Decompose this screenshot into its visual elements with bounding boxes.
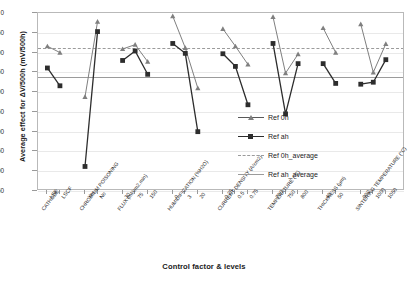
legend-key-4 <box>238 170 264 180</box>
x-axis-tick <box>197 190 198 194</box>
data-point-ref-0h <box>57 50 62 55</box>
series-line-ref-ah <box>123 51 148 74</box>
legend-label: Ref ah <box>268 133 289 140</box>
series-line-ref-ah <box>323 64 336 84</box>
data-point-ref-ah <box>58 83 63 88</box>
legend-label: Ref ah_average <box>268 171 318 178</box>
data-point-ref-ah <box>371 80 376 85</box>
data-point-ref-ah <box>83 164 88 169</box>
series-line-ref-ah <box>47 68 60 86</box>
series-line-ref-ah <box>85 32 98 167</box>
y-axis-tick <box>32 32 37 33</box>
data-point-ref-ah <box>220 51 225 56</box>
x-axis-level-label: 3 <box>186 194 193 200</box>
x-axis-tick <box>172 190 173 194</box>
y-axis-tick-label: -50 <box>0 28 4 35</box>
legend-line <box>238 174 264 175</box>
x-axis-tick <box>297 190 298 194</box>
legend-item: Ref ah <box>238 127 388 146</box>
legend-key-1 <box>238 113 264 123</box>
legend-key-3 <box>238 151 264 161</box>
x-axis-tick <box>222 190 223 194</box>
y-axis-tick-label: -250 <box>0 107 4 114</box>
data-point-ref-0h <box>220 26 225 31</box>
y-axis-tick-label: -350 <box>0 147 4 154</box>
series-line-ref-ah <box>223 54 248 105</box>
data-point-ref-0h <box>195 86 200 91</box>
square-marker-icon <box>248 134 253 139</box>
x-axis-tick <box>385 190 386 194</box>
triangle-marker-icon <box>248 115 254 120</box>
data-point-ref-ah <box>358 82 363 87</box>
data-point-ref-0h <box>133 42 138 47</box>
y-axis-tick <box>32 91 37 92</box>
legend-line <box>238 155 264 156</box>
data-point-ref-ah <box>120 58 125 63</box>
data-point-ref-ah <box>133 49 138 54</box>
y-axis-tick <box>32 150 37 151</box>
data-point-ref-0h <box>321 25 326 30</box>
series-line-ref-ah <box>273 43 298 113</box>
x-axis-level-label: 75 <box>136 191 144 199</box>
data-point-ref-0h <box>383 41 388 46</box>
legend-item: Ref ah_average <box>238 165 388 184</box>
x-axis-level-label: 50 <box>336 191 344 199</box>
series-line-ref-0h <box>361 24 386 72</box>
x-axis-tick <box>147 190 148 194</box>
x-axis-tick <box>360 190 361 194</box>
data-point-ref-0h <box>82 94 87 99</box>
data-point-ref-ah <box>333 81 338 86</box>
y-axis-tick-label: -150 <box>0 68 4 75</box>
plot-right-border <box>403 12 404 190</box>
data-point-ref-0h <box>95 19 100 24</box>
data-point-ref-ah <box>246 102 251 107</box>
x-axis-tick <box>247 190 248 194</box>
data-point-ref-ah <box>145 72 150 77</box>
data-point-ref-ah <box>321 61 326 66</box>
y-axis-tick <box>32 111 37 112</box>
legend-label: Ref 0h_average <box>268 152 318 159</box>
y-axis-tick <box>32 190 37 191</box>
average-effect-chart: Average effect for ΔV/500h (mV/500h) Con… <box>0 0 408 281</box>
y-axis-tick-label: -450 <box>0 187 4 194</box>
data-point-ref-0h <box>333 50 338 55</box>
x-axis-tick <box>122 190 123 194</box>
series-line-ref-ah <box>173 43 198 131</box>
data-point-ref-ah <box>271 41 276 46</box>
data-point-ref-0h <box>295 52 300 57</box>
y-axis-tick-label: -300 <box>0 127 4 134</box>
y-axis-tick <box>32 71 37 72</box>
x-axis-tick <box>272 190 273 194</box>
x-axis-tick <box>322 190 323 194</box>
legend-label: Ref 0h <box>268 114 289 121</box>
data-point-ref-ah <box>296 61 301 66</box>
x-axis-title: Control factor & levels <box>0 262 408 271</box>
data-point-ref-0h <box>45 44 50 49</box>
y-axis-tick-label: 0 <box>0 9 4 16</box>
legend-key-2 <box>238 132 264 142</box>
data-point-ref-ah <box>233 64 238 69</box>
data-point-ref-ah <box>383 57 388 62</box>
data-point-ref-0h <box>183 45 188 50</box>
series-line-ref-0h <box>323 28 336 53</box>
data-point-ref-0h <box>270 14 275 19</box>
y-axis-tick-label: -200 <box>0 88 4 95</box>
y-axis-tick <box>32 170 37 171</box>
y-axis-tick-label: -400 <box>0 167 4 174</box>
y-axis-title: Average effect for ΔV/500h (mV/500h) <box>18 17 27 177</box>
legend-item: Ref 0h_average <box>238 146 388 165</box>
data-point-ref-ah <box>170 41 175 46</box>
legend-item: Ref 0h <box>238 108 388 127</box>
data-point-ref-ah <box>183 51 188 56</box>
x-axis-tick <box>46 190 47 194</box>
data-point-ref-0h <box>371 70 376 75</box>
y-axis-tick-label: -100 <box>0 48 4 55</box>
x-axis-level-label: 20 <box>198 191 206 199</box>
y-axis-tick <box>32 12 37 13</box>
chart-legend: Ref 0hRef ahRef 0h_averageRef ah_average <box>238 108 388 184</box>
x-axis-tick <box>84 190 85 194</box>
data-point-ref-0h <box>170 14 175 19</box>
y-axis-tick <box>32 131 37 132</box>
data-point-ref-ah <box>45 66 50 71</box>
data-point-ref-ah <box>95 29 100 34</box>
